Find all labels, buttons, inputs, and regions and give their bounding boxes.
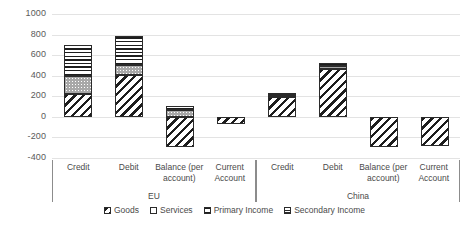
legend-label: Goods: [114, 206, 139, 215]
gridline: [52, 137, 460, 138]
legend-swatch-icon: [204, 207, 211, 214]
legend-label: Secondary Income: [294, 206, 365, 215]
legend-swatch-icon: [284, 207, 291, 214]
bar-segment-goods: [370, 117, 398, 147]
axis-group-china: CreditDebitBalance (per account)Current …: [256, 160, 460, 202]
bar-segment-services: [64, 76, 92, 95]
axis-category-row: CreditDebitBalance (per account)Current …: [257, 160, 459, 190]
chart-legend: GoodsServicesPrimary IncomeSecondary Inc…: [0, 206, 469, 215]
zero-gridline: [52, 117, 460, 118]
y-axis-tick-label: 600: [2, 50, 46, 59]
bar-segment-goods: [166, 117, 194, 147]
bar-segment-services: [115, 65, 143, 74]
bar-segment-primary-income: [319, 63, 347, 66]
y-axis-tick-label: 200: [2, 91, 46, 100]
y-axis-tick-label: 800: [2, 30, 46, 39]
bar-segment-goods: [421, 117, 449, 146]
bar-china-credit: [268, 14, 296, 158]
y-axis-tick-label: 400: [2, 71, 46, 80]
legend-label: Services: [160, 206, 193, 215]
category-axis: CreditDebitBalance (per account)Current …: [52, 160, 460, 202]
legend-item-services[interactable]: Services: [150, 206, 193, 215]
axis-category-label: Current Account: [409, 160, 460, 190]
axis-category-label: Debit: [308, 160, 359, 190]
legend-item-primary-income[interactable]: Primary Income: [204, 206, 274, 215]
legend-swatch-icon: [150, 207, 157, 214]
gridline: [52, 14, 460, 15]
plot-area: [52, 14, 460, 158]
gridline: [52, 35, 460, 36]
bar-segment-primary-income: [268, 93, 296, 95]
legend-swatch-icon: [104, 207, 111, 214]
axis-group-label: EU: [53, 190, 255, 202]
legend-label: Primary Income: [214, 206, 274, 215]
bar-eu-current-account: [217, 14, 245, 158]
axis-group-eu: CreditDebitBalance (per account)Current …: [52, 160, 256, 202]
bar-segment-goods: [64, 94, 92, 117]
legend-item-goods[interactable]: Goods: [104, 206, 139, 215]
y-axis-tick-label: 0: [2, 112, 46, 121]
bar-segment-services: [319, 66, 347, 68]
y-axis-tick-label: 1000: [2, 9, 46, 18]
bar-segment-services: [166, 110, 194, 117]
bar-segment-goods: [268, 97, 296, 117]
axis-category-label: Credit: [53, 160, 104, 190]
bar-segment-goods: [217, 117, 245, 124]
bar-segment-services: [268, 95, 296, 97]
axis-group-label: China: [257, 190, 459, 202]
axis-category-label: Credit: [257, 160, 308, 190]
bar-eu-balance-per-account: [166, 14, 194, 158]
bar-eu-credit: [64, 14, 92, 158]
axis-category-label: Debit: [104, 160, 155, 190]
gridline: [52, 158, 460, 159]
bar-segment-primary-income: [166, 106, 194, 110]
bar-segment-primary-income: [115, 36, 143, 66]
gridline: [52, 55, 460, 56]
gridline: [52, 96, 460, 97]
axis-category-label: Balance (per account): [154, 160, 205, 190]
y-axis-tick-label: -200: [2, 132, 46, 141]
bar-eu-debit: [115, 14, 143, 158]
axis-category-row: CreditDebitBalance (per account)Current …: [53, 160, 255, 190]
bar-segment-primary-income: [64, 45, 92, 76]
bar-segment-goods: [319, 69, 347, 117]
legend-item-secondary-income[interactable]: Secondary Income: [284, 206, 365, 215]
bar-segment-goods: [115, 75, 143, 117]
gridline: [52, 76, 460, 77]
axis-category-label: Current Account: [205, 160, 256, 190]
stacked-bar-chart: 10008006004002000-200-400 CreditDebitBal…: [0, 0, 469, 231]
bar-china-debit: [319, 14, 347, 158]
y-axis-tick-label: -400: [2, 153, 46, 162]
axis-category-label: Balance (per account): [358, 160, 409, 190]
bar-china-balance-per-account: [370, 14, 398, 158]
bar-china-current-account: [421, 14, 449, 158]
